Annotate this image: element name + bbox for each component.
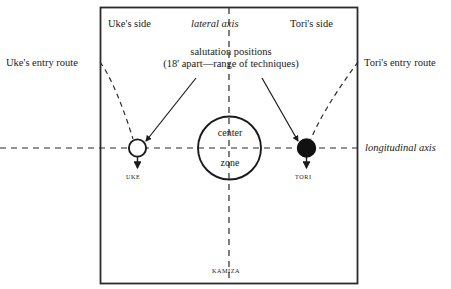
- salutation-annotation: salutation positions (18' apart—range of…: [136, 46, 326, 70]
- salutation-annotation-line1: salutation positions: [136, 46, 326, 58]
- lateral-axis-label: lateral axis: [191, 18, 239, 30]
- diagram-canvas: Uke's side lateral axis Tori's side Uke'…: [0, 0, 451, 289]
- uke-position-marker: [129, 139, 146, 156]
- center-zone-label-line2: zone: [200, 157, 260, 168]
- tori-entry-route-label: Tori's entry route: [364, 57, 436, 69]
- tori-position-marker: [298, 139, 316, 157]
- tori-marker-label: TORI: [295, 174, 312, 181]
- uke-marker-label: UKE: [126, 174, 140, 181]
- salutation-annotation-line2: (18' apart—range of techniques): [136, 58, 326, 70]
- longitudinal-axis-label: longitudinal axis: [365, 142, 436, 154]
- uke-side-label: Uke's side: [108, 18, 151, 30]
- tori-side-label: Tori's side: [290, 18, 333, 30]
- center-zone-label-line1: center: [200, 127, 260, 138]
- kamiza-label: KAMIZA: [212, 268, 240, 275]
- uke-entry-route-label: Uke's entry route: [6, 57, 78, 69]
